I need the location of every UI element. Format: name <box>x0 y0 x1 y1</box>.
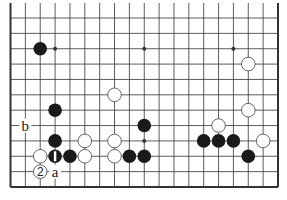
white-stone-icon <box>212 119 226 133</box>
white-stone: 2 <box>33 165 47 179</box>
black-stone-icon <box>212 134 226 148</box>
white-stone <box>212 119 226 133</box>
black-stone-icon <box>227 134 241 148</box>
black-stone <box>137 149 151 163</box>
black-stone-icon <box>137 119 151 133</box>
white-stone-icon <box>78 149 92 163</box>
move-number-1 <box>54 151 56 161</box>
black-stone <box>33 42 47 56</box>
white-stone-icon <box>241 57 255 71</box>
move-number-2: 2 <box>37 165 44 179</box>
white-stone-icon <box>108 88 122 102</box>
star-point <box>53 47 57 51</box>
white-stone-icon <box>108 149 122 163</box>
white-stone-icon <box>78 134 92 148</box>
white-stone <box>78 149 92 163</box>
black-stone <box>197 134 211 148</box>
black-stone <box>212 134 226 148</box>
black-stone-icon <box>123 149 137 163</box>
white-stone-icon <box>108 134 122 148</box>
white-stone <box>241 103 255 117</box>
star-point <box>142 47 146 51</box>
point-label-a: a <box>52 164 59 180</box>
white-stone <box>78 134 92 148</box>
white-stone-icon <box>33 149 47 163</box>
black-stone <box>63 149 77 163</box>
black-stone <box>123 149 137 163</box>
white-stone <box>256 134 270 148</box>
black-stone-icon <box>63 149 77 163</box>
black-stone-icon <box>48 103 62 117</box>
black-stone <box>137 119 151 133</box>
black-stone <box>48 134 62 148</box>
black-stone <box>48 103 62 117</box>
white-stone <box>241 57 255 71</box>
go-board-diagram: ba 2 <box>0 0 287 200</box>
black-stone-icon <box>241 149 255 163</box>
white-stone <box>108 149 122 163</box>
white-stone <box>33 149 47 163</box>
black-stone <box>241 149 255 163</box>
star-point <box>231 47 235 51</box>
black-stone-icon <box>197 134 211 148</box>
black-stone-icon <box>48 134 62 148</box>
point-label-b: b <box>22 118 30 134</box>
star-point <box>142 139 146 143</box>
white-stone <box>108 134 122 148</box>
white-stone <box>108 88 122 102</box>
white-stone-icon <box>256 134 270 148</box>
black-stone <box>48 149 62 163</box>
white-stone-icon <box>241 103 255 117</box>
black-stone-icon <box>137 149 151 163</box>
black-stone-icon <box>33 42 47 56</box>
black-stone <box>227 134 241 148</box>
